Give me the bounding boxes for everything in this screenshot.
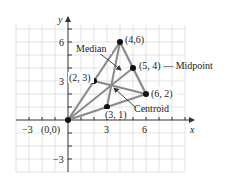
vertex-point xyxy=(117,39,123,45)
median-label: Median xyxy=(76,43,107,54)
y-tick-label: 6 xyxy=(59,37,64,48)
vertex-point xyxy=(65,117,71,123)
y-axis-label: y xyxy=(57,14,63,25)
coordinate-plane: x y −3 3 6 6 3 −3 (0,0) (4,6) (6, 2) (2,… xyxy=(0,0,231,182)
midpoint-point xyxy=(130,65,136,71)
midpoint-label: (5, 4) — Midpoint xyxy=(139,60,213,72)
centroid-label: Centroid xyxy=(134,103,169,114)
vertex-label: (0,0) xyxy=(41,124,60,136)
x-tick-label: −3 xyxy=(22,124,33,135)
vertex-label: (6, 2) xyxy=(151,88,173,100)
midpoint-label: (3, 1) xyxy=(105,109,127,121)
x-axis-label: x xyxy=(189,124,195,135)
y-tick-label: 3 xyxy=(59,76,64,87)
x-tick-label: 3 xyxy=(104,124,109,135)
midpoint-label: (2, 3) xyxy=(69,72,91,84)
x-tick-label: 6 xyxy=(142,124,147,135)
vertex-label: (4,6) xyxy=(125,34,144,46)
vertex-point xyxy=(143,91,149,97)
y-tick-label: −3 xyxy=(53,154,64,165)
